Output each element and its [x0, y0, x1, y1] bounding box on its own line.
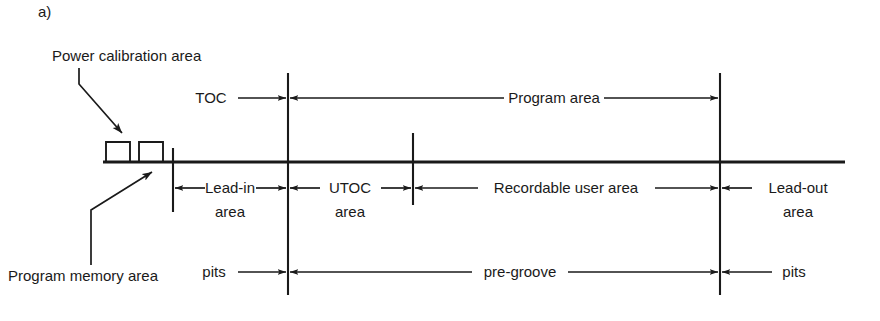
- label-recordable-user-area: Recordable user area: [494, 179, 638, 197]
- callout-line-program-memory: [91, 172, 152, 265]
- label-pre-groove: pre-groove: [484, 263, 557, 281]
- label-toc: TOC: [195, 89, 226, 107]
- label-lead-in-area-line1: Lead-in: [205, 179, 255, 197]
- label-pits-right: pits: [782, 263, 805, 281]
- figure-recordable-disc-layout: a): [0, 0, 880, 321]
- pca-box-1: [106, 142, 130, 162]
- callout-label-program-memory: Program memory area: [8, 267, 158, 285]
- label-utoc-area-line2: area: [335, 203, 365, 221]
- callout-line-power-calibration: [79, 68, 122, 133]
- pca-box-2: [139, 142, 163, 162]
- label-lead-out-area-line2: area: [783, 203, 813, 221]
- label-lead-out-area-line1: Lead-out: [768, 179, 827, 197]
- label-program-area: Program area: [508, 89, 600, 107]
- label-lead-in-area-line2: area: [215, 203, 245, 221]
- callout-label-power-calibration: Power calibration area: [52, 47, 201, 65]
- label-utoc-area-line1: UTOC: [329, 179, 371, 197]
- label-pits-left: pits: [202, 263, 225, 281]
